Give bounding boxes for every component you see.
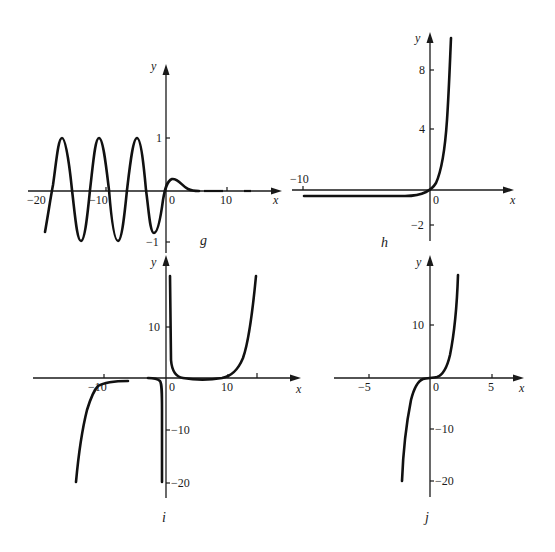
j-y-tick-label-neg20: −20 (435, 474, 454, 488)
g-curve (45, 138, 199, 241)
g-panel-label: g (200, 233, 207, 248)
j-y-axis-arrow-icon (427, 255, 434, 266)
i-y-tick-label-neg10: −10 (171, 423, 190, 437)
h-y-tick-label-neg2: −2 (411, 218, 424, 232)
h-y-tick-label-4: 4 (419, 122, 425, 136)
i-x-axis-label: x (295, 382, 302, 396)
i-x-tick-label-0: 0 (169, 380, 175, 394)
g-y-axis-label: y (150, 59, 157, 73)
i-x-tick-label-10: 10 (221, 380, 233, 394)
panel-i: −10 0 10 10 −10 −20 x y i (33, 255, 302, 525)
i-x-axis-arrow-icon (290, 375, 301, 382)
i-panel-label: i (162, 510, 166, 525)
j-y-axis-label: y (415, 255, 422, 269)
h-x-axis-label: x (509, 193, 516, 207)
h-y-axis-arrow-icon (427, 32, 434, 43)
j-x-axis-label: x (518, 381, 525, 395)
i-y-axis-label: y (150, 255, 157, 269)
h-x-tick-label-0: 0 (433, 193, 439, 207)
g-y-tick-label-neg1: −1 (146, 235, 159, 249)
j-x-tick-label-neg5: −5 (358, 380, 371, 394)
g-x-tick-label-neg10: −10 (89, 193, 108, 207)
g-x-tick-label-10: 10 (220, 193, 232, 207)
i-y-axis-arrow-icon (163, 255, 170, 266)
j-x-tick-label-0: 0 (433, 380, 439, 394)
h-x-tick-label-neg10: −10 (290, 172, 309, 186)
g-x-tick-label-neg20: −20 (27, 193, 46, 207)
j-panel-label: j (423, 510, 429, 525)
h-y-tick-label-8: 8 (419, 63, 425, 77)
panel-j: −5 0 5 10 −10 −20 x y j (334, 255, 525, 525)
g-x-tick-label-0: 0 (169, 193, 175, 207)
g-y-axis-arrow-icon (163, 64, 170, 75)
j-y-tick-label-neg10: −10 (435, 422, 454, 436)
i-curve-left (76, 381, 128, 482)
j-y-tick-label-10: 10 (412, 318, 424, 332)
panel-g: −20 −10 0 10 1 −1 x y g (27, 59, 282, 253)
i-y-tick-label-10: 10 (148, 320, 160, 334)
h-curve (304, 38, 451, 196)
h-panel-label: h (381, 235, 388, 250)
g-x-axis-label: x (272, 193, 279, 207)
i-curve-middle (148, 378, 162, 482)
i-y-tick-label-neg20: −20 (171, 476, 190, 490)
panel-h: −10 0 8 4 −2 x y h (290, 31, 516, 250)
h-y-axis-label: y (414, 31, 421, 45)
j-x-tick-label-5: 5 (488, 380, 494, 394)
i-curve-right (170, 276, 256, 380)
figure-canvas: −20 −10 0 10 1 −1 x y g −10 0 8 4 −2 x y… (0, 0, 555, 552)
g-y-tick-label-1: 1 (156, 131, 162, 145)
